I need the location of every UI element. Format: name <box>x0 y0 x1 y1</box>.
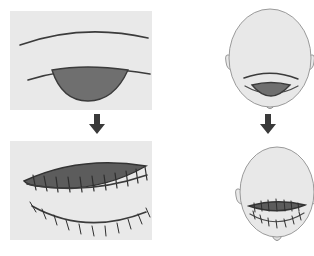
panel-closeup-before <box>10 11 152 110</box>
arrow-down-icon <box>89 114 105 134</box>
figure-container <box>0 0 314 256</box>
arrow-left <box>89 114 105 134</box>
panel-closeup-after <box>10 141 152 240</box>
panel-face-after <box>236 147 314 241</box>
panel-face-before <box>226 9 314 109</box>
eyelid-suture-figure <box>0 0 314 256</box>
panel-background-closeup-after <box>10 141 152 240</box>
arrow-down-icon <box>260 114 276 134</box>
head-oval-shape <box>240 147 314 237</box>
arrow-right <box>260 114 276 134</box>
